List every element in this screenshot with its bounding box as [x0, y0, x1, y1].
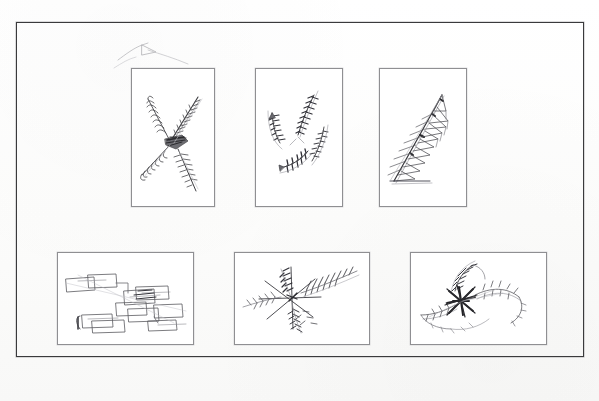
radial-feathered-cross-sketch [235, 253, 369, 344]
x-cross-hatched-sketch [132, 69, 214, 206]
pinwheel-curved-strokes-sketch [256, 69, 342, 206]
panel-4-overlapping-boxes-cascade-sketch[interactable] [57, 252, 194, 345]
overlapping-boxes-cascade-sketch [58, 253, 193, 344]
triangular-ladder-sketch [380, 69, 466, 206]
panel-6-asterisk-burst-s-curve-sketch[interactable] [410, 252, 547, 345]
panel-1-x-cross-hatched-sketch[interactable] [131, 68, 215, 207]
panel-5-radial-feathered-cross-sketch[interactable] [234, 252, 370, 345]
panel-2-pinwheel-curved-strokes-sketch[interactable] [255, 68, 343, 207]
figure-page [0, 0, 599, 401]
panel-3-triangular-ladder-sketch[interactable] [379, 68, 467, 207]
asterisk-burst-s-curve-sketch [411, 253, 546, 344]
